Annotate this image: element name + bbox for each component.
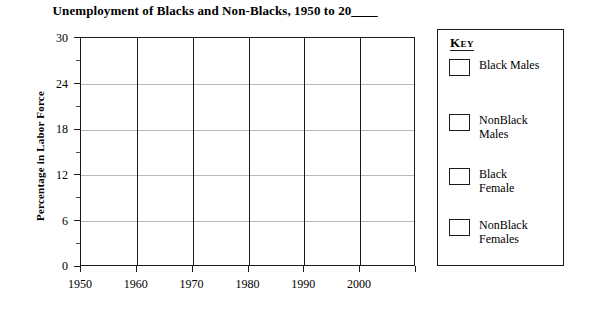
legend-swatch-icon[interactable]	[449, 114, 470, 131]
y-tick-label: 30	[38, 32, 68, 44]
legend-item-label: NonBlack Females	[479, 218, 528, 246]
x-tick-label: 2000	[334, 278, 384, 291]
gridline-vertical	[193, 38, 194, 265]
y-tick-mark-minor	[76, 243, 80, 244]
y-tick-label: 6	[38, 215, 68, 227]
x-tick-mark	[248, 266, 249, 272]
legend-item[interactable]: NonBlack Males	[449, 113, 561, 141]
chart-title-text: Unemployment of Blacks and Non-Blacks, 1…	[53, 3, 352, 18]
legend-item-label-line1: NonBlack	[479, 113, 528, 127]
legend-item-label: NonBlack Males	[479, 113, 528, 141]
gridline-vertical	[304, 38, 305, 265]
x-tick-mark	[136, 266, 137, 272]
y-tick-label: 12	[38, 169, 68, 181]
gridline-horizontal	[81, 130, 414, 131]
legend-swatch-icon[interactable]	[449, 219, 470, 236]
chart-title-blank: ____	[351, 3, 377, 18]
y-tick-mark-minor	[76, 106, 80, 107]
gridline-vertical	[137, 38, 138, 265]
y-tick-mark	[74, 129, 80, 130]
legend-item-label-line2: Female	[479, 181, 514, 195]
legend-item-label-line2: Males	[479, 127, 528, 141]
x-tick-mark	[192, 266, 193, 272]
gridline-vertical	[360, 38, 361, 265]
legend: Key Black Males NonBlack Males Black Fem…	[437, 29, 564, 266]
legend-item[interactable]: NonBlack Females	[449, 218, 561, 246]
y-tick-mark-minor	[76, 60, 80, 61]
y-tick-label: 18	[38, 123, 68, 135]
legend-swatch-icon[interactable]	[449, 59, 470, 76]
legend-item-label: Black Female	[479, 167, 514, 195]
x-tick-label: 1960	[111, 278, 161, 291]
y-tick-mark	[74, 83, 80, 84]
x-tick-mark	[415, 266, 416, 272]
gridline-horizontal	[81, 175, 414, 176]
x-tick-mark	[303, 266, 304, 272]
legend-item-label: Black Males	[479, 58, 539, 72]
y-tick-mark	[74, 37, 80, 38]
gridline-horizontal	[81, 84, 414, 85]
x-tick-label: 1970	[167, 278, 217, 291]
x-tick-label: 1990	[278, 278, 328, 291]
legend-item[interactable]: Black Female	[449, 167, 561, 195]
y-tick-mark-minor	[76, 152, 80, 153]
y-tick-label: 24	[38, 78, 68, 90]
legend-item[interactable]: Black Males	[449, 58, 561, 76]
legend-swatch-icon[interactable]	[449, 168, 470, 185]
y-tick-mark-minor	[76, 197, 80, 198]
x-tick-label: 1950	[55, 278, 105, 291]
gridline-horizontal	[81, 221, 414, 222]
legend-item-label-line1: Black	[479, 167, 514, 181]
x-tick-mark	[359, 266, 360, 272]
legend-title: Key	[450, 35, 474, 51]
plot-area	[80, 37, 415, 266]
y-tick-mark	[74, 174, 80, 175]
gridline-vertical	[249, 38, 250, 265]
y-tick-mark	[74, 220, 80, 221]
x-tick-mark	[80, 266, 81, 272]
chart-title: Unemployment of Blacks and Non-Blacks, 1…	[0, 3, 430, 19]
x-tick-label: 1980	[223, 278, 273, 291]
y-tick-label: 0	[38, 260, 68, 272]
legend-item-label-line1: Black Males	[479, 58, 539, 72]
legend-item-label-line2: Females	[479, 232, 528, 246]
legend-item-label-line1: NonBlack	[479, 218, 528, 232]
